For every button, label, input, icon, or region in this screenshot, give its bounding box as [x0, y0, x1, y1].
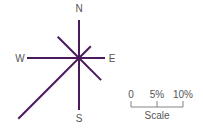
label-south: S: [76, 113, 83, 124]
spoke-se: [79, 58, 101, 80]
scale-title: Scale: [144, 110, 169, 121]
scale-legend: 0 5% 10% Scale: [128, 89, 193, 121]
label-west: W: [15, 53, 25, 64]
wind-rose-diagram: N E S W 0 5% 10% Scale: [0, 0, 203, 131]
scale-tick-5: 5%: [150, 89, 165, 100]
wind-rose-spokes: [18, 20, 105, 119]
scale-tick-0: 0: [128, 89, 134, 100]
label-east: E: [109, 53, 116, 64]
scale-tick-10: 10%: [173, 89, 193, 100]
spoke-ne: [79, 46, 91, 58]
label-north: N: [75, 3, 82, 14]
spoke-nw: [58, 37, 79, 58]
spoke-sw: [18, 58, 79, 119]
scale-bar: [131, 101, 183, 107]
